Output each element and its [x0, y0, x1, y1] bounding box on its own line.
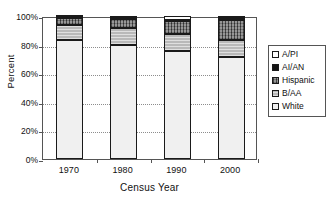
legend-label: B/AA [282, 89, 301, 98]
y-axis-tick-label: 60% [14, 70, 38, 79]
legend-label: Hispanic [282, 76, 315, 85]
legend-item: White [272, 100, 323, 113]
bar-column [110, 16, 137, 159]
bar-segment [56, 40, 83, 159]
bar-segment [218, 40, 245, 57]
legend-swatch-icon [272, 64, 279, 71]
bar-segment [110, 45, 137, 159]
legend: A/PIAI/ANHispanicB/AAWhite [268, 45, 326, 117]
y-axis-tick-labels: 0%20%40%60%80%100% [14, 17, 38, 160]
bar-segment [56, 15, 83, 17]
y-axis-tick-label: 80% [14, 42, 38, 51]
bar-segment [110, 16, 137, 18]
x-axis-tick-label: 1980 [100, 165, 146, 175]
x-axis-title: Census Year [42, 182, 257, 193]
x-axis-tick-mark [151, 159, 152, 163]
plot-area [42, 17, 257, 160]
y-axis-tick-label: 40% [14, 99, 38, 108]
bar-column [56, 16, 83, 159]
bar-segment [218, 57, 245, 159]
legend-swatch-icon [272, 51, 279, 58]
legend-swatch-icon [272, 103, 279, 110]
bar-segment [164, 21, 191, 34]
x-axis-tick-labels: 1970198019902000 [42, 165, 257, 177]
legend-swatch-icon [272, 77, 279, 84]
y-axis-tick-label: 0% [14, 156, 38, 165]
bar-segment [164, 16, 191, 20]
legend-item: A/PI [272, 48, 323, 61]
x-axis-tick-label: 2000 [207, 165, 253, 175]
x-axis-tick-mark [258, 159, 259, 163]
legend-label: White [282, 102, 304, 111]
legend-item: B/AA [272, 87, 323, 100]
legend-swatch-icon [272, 90, 279, 97]
bar-segment [56, 25, 83, 41]
bar-column [164, 16, 191, 159]
legend-label: A/PI [282, 50, 298, 59]
plot-inner [43, 18, 256, 159]
bar-segment [218, 20, 245, 40]
legend-item: Hispanic [272, 74, 323, 87]
legend-label: AI/AN [282, 63, 304, 72]
legend-item: AI/AN [272, 61, 323, 74]
bar-column [218, 16, 245, 159]
y-axis-tick-mark [39, 18, 43, 19]
bar-segment [164, 34, 191, 51]
x-axis-tick-mark [97, 159, 98, 163]
x-axis-tick-label: 1970 [46, 165, 92, 175]
stacked-bar-chart: Percent 0%20%40%60%80%100% 1970198019902… [0, 0, 330, 201]
bar-segment [110, 28, 137, 44]
bar-segment [110, 19, 137, 28]
y-axis-tick-label: 100% [14, 13, 38, 22]
bar-segment [218, 16, 245, 18]
x-axis-tick-label: 1990 [153, 165, 199, 175]
bar-segment [56, 18, 83, 24]
bar-segment [164, 51, 191, 159]
x-axis-tick-mark [204, 159, 205, 163]
y-axis-tick-mark [39, 161, 43, 162]
y-axis-tick-label: 20% [14, 127, 38, 136]
